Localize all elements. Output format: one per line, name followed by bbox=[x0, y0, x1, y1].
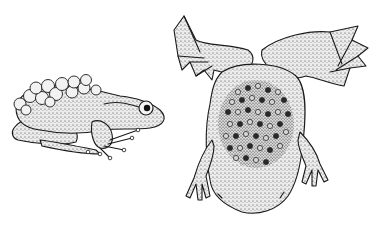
surinam-toad bbox=[174, 16, 368, 213]
toad-right-foreleg bbox=[298, 132, 328, 186]
frog-pupil bbox=[144, 105, 150, 111]
egg-carrying-frog bbox=[12, 75, 164, 160]
toad-egg-pits bbox=[218, 80, 294, 168]
illustration bbox=[0, 0, 378, 229]
